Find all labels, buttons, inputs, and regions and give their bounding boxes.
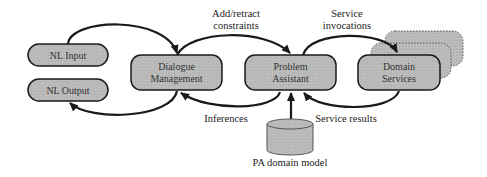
service-invocations-label-line2: invocations xyxy=(323,20,371,31)
pa-domain-model-label: PA domain model xyxy=(253,157,328,168)
service-invocations-label-line1: Service xyxy=(331,8,363,19)
pa-domain-model-cylinder: PA domain model xyxy=(253,119,328,168)
inferences-label: Inferences xyxy=(204,113,248,124)
add-retract-label-line2: constraints xyxy=(213,20,259,31)
problem-assistant-node: Problem Assistant xyxy=(245,55,336,90)
edges xyxy=(68,24,399,126)
nl-input-node: NL Input xyxy=(28,44,108,66)
add-retract-label-line1: Add/retract xyxy=(212,8,260,19)
nl-output-label: NL Output xyxy=(46,85,89,96)
dialogue-management-node: Dialogue Management xyxy=(131,55,222,90)
nl-input-label: NL Input xyxy=(50,50,87,61)
architecture-diagram: NL Input NL Output Dialogue Management P… xyxy=(0,0,487,177)
nl-output-node: NL Output xyxy=(28,79,108,101)
problem-label-line2: Assistant xyxy=(272,73,309,84)
problem-label-line1: Problem xyxy=(274,61,308,72)
dialogue-label-line2: Management xyxy=(150,73,202,84)
domain-to-problem-arrow xyxy=(304,91,399,107)
domain-services-node: Domain Services xyxy=(358,55,440,90)
dialogue-label-line1: Dialogue xyxy=(158,61,195,72)
dialogue-to-problem-arrow xyxy=(177,35,290,55)
domain-label-line1: Domain xyxy=(383,61,415,72)
service-results-label: Service results xyxy=(315,113,377,124)
problem-to-dialogue-arrow xyxy=(181,92,280,106)
domain-label-line2: Services xyxy=(382,73,416,84)
